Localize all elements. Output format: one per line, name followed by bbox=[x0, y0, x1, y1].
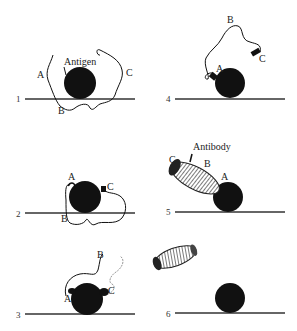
panel-number: 4 bbox=[166, 94, 171, 104]
label-a: A bbox=[216, 63, 224, 74]
antibody-pointer bbox=[190, 154, 192, 162]
antigen-pointer bbox=[64, 67, 66, 75]
antigen-sphere bbox=[71, 283, 103, 315]
antigen-sphere bbox=[215, 283, 245, 313]
panel-number: 5 bbox=[166, 207, 171, 217]
panel-5: 5 Antibody C B A bbox=[165, 141, 285, 217]
label-c: C bbox=[107, 181, 114, 192]
label-a: A bbox=[221, 171, 229, 182]
panel-3: 3 A B C bbox=[16, 249, 135, 320]
panel-number: 1 bbox=[16, 94, 21, 104]
panel-1: 1 Antigen A B C bbox=[16, 50, 135, 116]
label-a: A bbox=[37, 69, 45, 80]
released-antibody-coil bbox=[150, 241, 199, 274]
label-c: C bbox=[169, 154, 176, 165]
label-c: C bbox=[126, 67, 133, 78]
antigen-sphere bbox=[64, 67, 96, 99]
antibody-label: Antibody bbox=[193, 141, 231, 152]
panel-number: 6 bbox=[166, 309, 171, 319]
panel-2: 2 A B C bbox=[16, 171, 135, 225]
antibody-formation-diagram: 1 Antigen A B C 4 A B C 2 A B C 5 bbox=[0, 0, 297, 331]
panel-number: 2 bbox=[16, 209, 21, 219]
label-a: A bbox=[64, 293, 72, 304]
panel-4: 4 A B C bbox=[166, 14, 285, 104]
antigen-sphere bbox=[69, 181, 101, 213]
antigen-label: Antigen bbox=[64, 56, 96, 67]
label-b: B bbox=[61, 213, 68, 224]
panel-6: 6 bbox=[150, 241, 285, 319]
label-c: C bbox=[259, 53, 266, 64]
label-b: B bbox=[204, 158, 211, 169]
label-b: B bbox=[58, 105, 65, 116]
label-c: C bbox=[108, 285, 115, 296]
panel-number: 3 bbox=[16, 310, 21, 320]
label-b: B bbox=[227, 14, 234, 25]
label-a: A bbox=[68, 171, 76, 182]
label-b: B bbox=[97, 249, 104, 260]
